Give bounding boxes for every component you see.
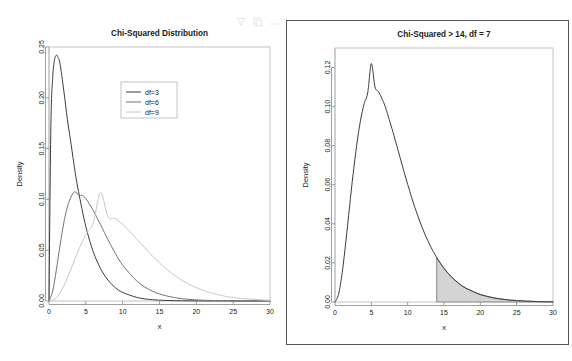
- screenshot-root: Chi-Squared Distribution0.000.050.100.15…: [0, 0, 572, 361]
- left-x-tick-label: 0: [47, 308, 51, 315]
- right-y-tick-label: 0.10: [324, 100, 331, 114]
- left-chart-title: Chi-Squared Distribution: [111, 29, 208, 38]
- right-x-tick-label: 0: [333, 309, 337, 316]
- left-x-tick-label: 20: [192, 308, 200, 315]
- right-y-tick-label: 0.04: [324, 217, 331, 231]
- left-x-tick-label: 15: [156, 308, 164, 315]
- right-x-tick-label: 10: [404, 309, 412, 316]
- right-y-tick-label: 0.12: [324, 61, 331, 75]
- chi-squared-distribution-chart: Chi-Squared Distribution0.000.050.100.15…: [0, 20, 282, 345]
- left-y-axis-label: Density: [15, 161, 24, 186]
- left-legend-label: df=3: [145, 89, 159, 96]
- left-x-tick-label: 30: [266, 308, 274, 315]
- right-chart-svg: Chi-Squared > 14, df = 70.000.020.040.06…: [287, 21, 568, 344]
- right-x-tick-label: 25: [513, 309, 521, 316]
- left-y-tick-label: 0.15: [38, 142, 45, 156]
- left-chart-svg: Chi-Squared Distribution0.000.050.100.15…: [0, 20, 282, 345]
- left-x-tick-label: 10: [119, 308, 127, 315]
- right-y-tick-label: 0.02: [324, 256, 331, 270]
- left-x-axis-label: x: [158, 322, 162, 331]
- right-y-axis-label: Density: [301, 162, 310, 187]
- left-y-tick-label: 0.20: [38, 91, 45, 105]
- left-y-tick-label: 0.05: [38, 243, 45, 257]
- right-plot-box: [335, 48, 553, 302]
- right-x-axis-label: x: [442, 323, 446, 332]
- left-y-tick-label: 0.25: [38, 40, 45, 54]
- left-y-tick-label: 0.00: [38, 294, 45, 308]
- right-y-tick-label: 0.06: [324, 178, 331, 192]
- left-legend-label: df=6: [145, 99, 159, 106]
- right-y-tick-label: 0.00: [324, 295, 331, 309]
- left-legend: df=3df=6df=9: [121, 82, 177, 118]
- right-x-tick-label: 30: [549, 309, 557, 316]
- left-legend-label: df=9: [145, 109, 159, 116]
- right-x-tick-label: 5: [369, 309, 373, 316]
- left-y-tick-label: 0.10: [38, 192, 45, 206]
- right-x-tick-label: 15: [440, 309, 448, 316]
- left-x-tick-label: 25: [229, 308, 237, 315]
- chi-squared-tail-chart: Chi-Squared > 14, df = 70.000.020.040.06…: [287, 21, 568, 344]
- right-chart-title: Chi-Squared > 14, df = 7: [397, 30, 491, 39]
- right-x-tick-label: 20: [476, 309, 484, 316]
- right-curve-df7: [335, 64, 553, 302]
- right-y-tick-label: 0.08: [324, 139, 331, 153]
- left-x-tick-label: 5: [84, 308, 88, 315]
